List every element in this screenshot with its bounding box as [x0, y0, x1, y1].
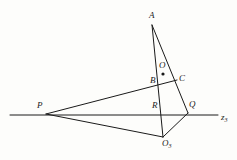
point-label-Q: Q [189, 100, 196, 109]
point-label-text-O3: O [162, 138, 169, 148]
point-label-P: P [37, 101, 43, 110]
point-label-text-z3: z [221, 112, 225, 122]
point-label-text-A: A [149, 10, 155, 20]
point-label-text-P: P [37, 100, 43, 110]
point-label-text-R: R [152, 100, 158, 110]
point-label-text-C: C [179, 73, 185, 83]
point-label-text-Q: Q [189, 99, 196, 109]
point-label-C: C [179, 74, 185, 83]
point-label-B: B [150, 76, 156, 85]
point-label-sub-z3: 3 [225, 117, 228, 123]
figure-canvas [0, 0, 237, 160]
point-label-O3: O3 [162, 139, 172, 148]
segment-P-to-O3 [46, 114, 163, 137]
point-label-text-O: O [159, 60, 166, 70]
point-label-sub-O3: 3 [169, 143, 172, 149]
point-label-text-B: B [150, 75, 156, 85]
point-marker-O [161, 72, 164, 75]
geometry-figure: AOBCRQPO3z3 [0, 0, 237, 160]
point-label-O: O [159, 61, 166, 70]
point-label-z3: z3 [221, 113, 228, 122]
point-label-A: A [149, 11, 155, 20]
point-label-R: R [152, 101, 158, 110]
segment-O3-to-Q [163, 113, 188, 137]
